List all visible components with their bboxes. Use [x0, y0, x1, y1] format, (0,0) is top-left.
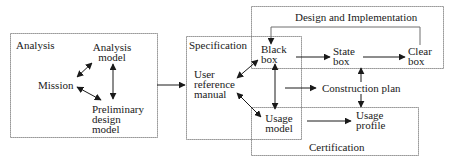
node-user-reference-manual: User reference manual: [194, 69, 235, 99]
region-label-specification: Specification: [189, 40, 247, 50]
arrow-urm-usage-model: [237, 93, 261, 117]
arrow-mission-analysis-model: [77, 63, 92, 77]
node-black-box: Black box: [261, 44, 287, 64]
arrow-mission-preliminary: [77, 87, 101, 100]
node-construction-plan: Construction plan: [322, 83, 401, 93]
region-label-analysis: Analysis: [16, 40, 55, 50]
node-usage-profile: Usage profile: [356, 110, 385, 130]
node-mission: Mission: [38, 80, 73, 90]
region-label-design: Design and Implementation: [295, 12, 417, 22]
node-state-box: State box: [333, 46, 355, 66]
region-label-certification: Certification: [309, 142, 365, 152]
node-usage-model: Usage model: [260, 113, 298, 133]
node-analysis-model: Analysis model: [88, 42, 136, 62]
node-preliminary-design-model: Preliminary design model: [92, 104, 144, 134]
node-clear-box: Clear box: [408, 46, 432, 66]
